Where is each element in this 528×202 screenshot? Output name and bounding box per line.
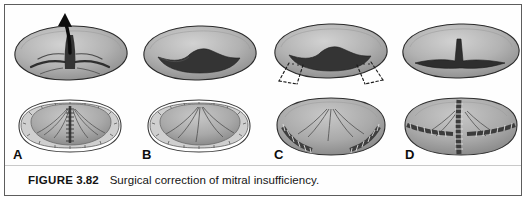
valve-top-view-c [275, 24, 387, 78]
panel-letter-a: A [13, 148, 23, 161]
panel-b: B [136, 5, 265, 163]
caption-inner: FIGURE3.82Surgical correction of mitral … [5, 175, 319, 187]
panel-letter-b: B [142, 148, 152, 161]
caption-number: 3.82 [76, 174, 98, 186]
annuloplasty-ring-view-b [148, 100, 250, 152]
caption-text: Surgical correction of mitral insufficie… [110, 174, 320, 186]
panel-a: A [7, 5, 136, 163]
annuloplasty-ring-view-c [277, 98, 385, 155]
annuloplasty-ring-view-d [405, 98, 517, 155]
valve-top-view-b [144, 26, 256, 80]
figure-caption: FIGURE3.82Surgical correction of mitral … [5, 166, 521, 195]
panel-d-illustration [397, 5, 526, 163]
caption-label: FIGURE [28, 174, 73, 186]
panel-b-illustration [136, 5, 265, 163]
figure-container: A [4, 4, 522, 196]
panel-d: D [397, 5, 526, 163]
panel-c-illustration [267, 5, 396, 163]
annuloplasty-ring-view-a [19, 100, 121, 152]
figure-plates: A [5, 5, 521, 163]
panel-a-illustration [7, 5, 136, 163]
panel-letter-c: C [274, 148, 284, 161]
panel-letter-d: D [405, 148, 415, 161]
panel-c: C [267, 5, 396, 163]
valve-top-view-d [403, 24, 519, 78]
